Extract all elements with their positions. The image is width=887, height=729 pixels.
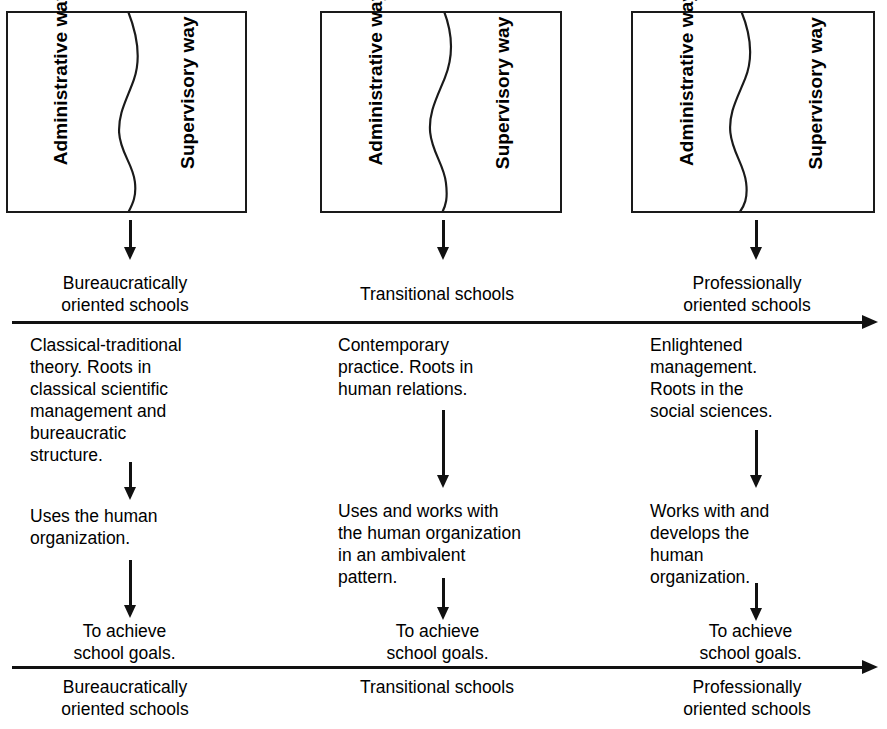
arrow-roots-to-action-left xyxy=(124,462,137,500)
arrow-roots-to-action-right xyxy=(750,430,763,488)
outcome-text-transitional: To achieve school goals. xyxy=(335,620,540,664)
arrow-box-to-label-middle xyxy=(437,220,450,260)
arrow-box-to-label-left xyxy=(124,220,137,260)
arrow-roots-to-action-middle xyxy=(437,410,450,488)
wavy-divider-icon xyxy=(8,11,245,213)
way-box-right: Administrative way Supervisory way xyxy=(631,11,875,213)
action-text-professional: Works with and develops the human organi… xyxy=(650,500,865,588)
action-text-transitional: Uses and works with the human organizati… xyxy=(338,500,570,588)
box-right-administrative-label: Administrative way xyxy=(676,58,698,166)
box-right-supervisory-label: Supervisory way xyxy=(804,54,826,169)
roots-text-bureaucratic: Classical-traditional theory. Roots in c… xyxy=(30,334,245,466)
outcome-text-bureaucratic: To achieve school goals. xyxy=(22,620,227,664)
wavy-divider-icon xyxy=(322,11,560,213)
arrow-box-to-label-right xyxy=(750,220,763,260)
box-middle-administrative-label: Administrative way xyxy=(365,58,387,165)
bottom-school-label-transitional: Transitional schools xyxy=(326,676,548,698)
outcome-text-professional: To achieve school goals. xyxy=(648,620,853,664)
box-left-supervisory-label: Supervisory way xyxy=(177,55,199,169)
arrow-action-to-outcome-right xyxy=(750,583,763,621)
way-box-middle: Administrative way Supervisory way xyxy=(320,11,562,213)
roots-text-professional: Enlightened management. Roots in the soc… xyxy=(650,334,865,422)
bottom-school-label-professional: Professionally oriented schools xyxy=(636,676,858,720)
diagram-canvas: Administrative way Supervisory way Admin… xyxy=(0,0,887,729)
top-school-label-bureaucratic: Bureaucratically oriented schools xyxy=(14,272,236,316)
arrow-action-to-outcome-left xyxy=(124,560,137,618)
top-school-label-transitional: Transitional schools xyxy=(326,283,548,305)
wavy-divider-icon xyxy=(633,11,873,213)
bottom-school-label-bureaucratic: Bureaucratically oriented schools xyxy=(14,676,236,720)
action-text-bureaucratic: Uses the human organization. xyxy=(30,505,245,549)
way-box-left: Administrative way Supervisory way xyxy=(6,11,247,213)
box-left-administrative-label: Administrative way xyxy=(50,59,72,166)
top-school-label-professional: Professionally oriented schools xyxy=(636,272,858,316)
top-continuum-arrow xyxy=(12,315,878,329)
box-middle-supervisory-label: Supervisory way xyxy=(492,55,514,169)
roots-text-transitional: Contemporary practice. Roots in human re… xyxy=(338,334,558,400)
